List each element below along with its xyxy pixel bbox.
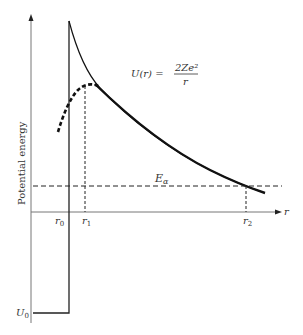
x-axis-arrow-icon: [275, 210, 282, 215]
energy-label: Eα: [154, 172, 169, 186]
formula-lhs: U(r) =: [131, 68, 164, 79]
y-axis: [29, 14, 34, 323]
y-axis-label: Potential energy: [16, 121, 27, 205]
coulomb-formula: U(r) = 2Ze² r: [131, 62, 198, 87]
well-depth-label: U0: [16, 307, 29, 320]
formula-denominator: r: [183, 76, 189, 87]
alpha-decay-diagram: r Potential energy r0 r1 r2 Eα U0 U(r) =…: [0, 0, 303, 335]
coulomb-curve-thick: [95, 84, 265, 193]
nuclear-well: [33, 21, 69, 313]
y-axis-arrow-icon: [29, 14, 34, 21]
x-axis-label: r: [284, 206, 290, 217]
tick-r1: r1: [82, 215, 91, 228]
formula-numerator: 2Ze²: [174, 62, 198, 73]
realistic-barrier-dashed: [58, 84, 98, 132]
coulomb-curve: [69, 21, 265, 193]
tick-r2: r2: [243, 215, 252, 228]
tick-r0: r0: [55, 215, 64, 228]
